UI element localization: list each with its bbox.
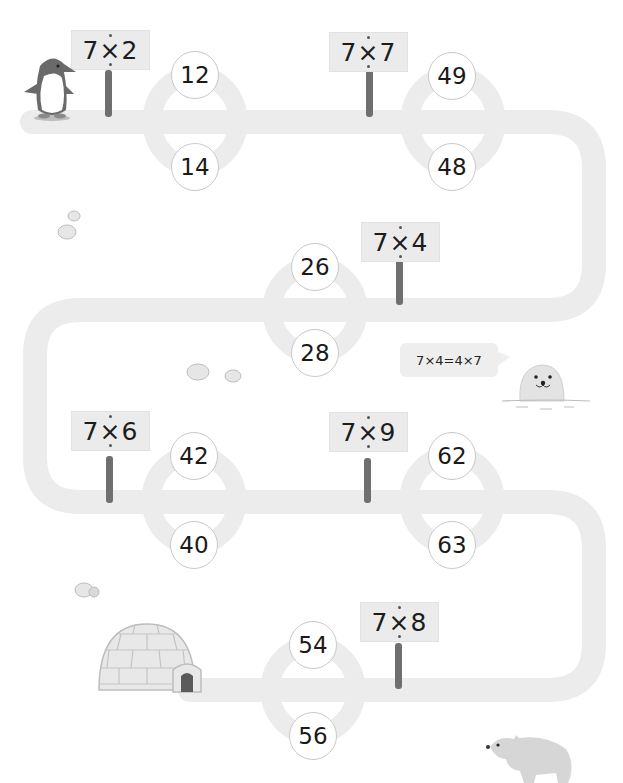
sign-post xyxy=(364,458,371,503)
answer-option[interactable]: 26 xyxy=(291,243,339,291)
problem-text: 7×6 xyxy=(83,417,139,446)
answer-option[interactable]: 63 xyxy=(428,521,476,569)
seal-icon xyxy=(500,355,592,411)
answer-option[interactable]: 54 xyxy=(289,621,337,669)
answer-option[interactable]: 14 xyxy=(171,143,219,191)
problem-sign-7x9: 7×9 xyxy=(329,412,408,452)
hint-text: 7×4=4×7 xyxy=(416,353,482,368)
sign-post xyxy=(366,70,373,117)
problem-sign-7x7: 7×7 xyxy=(329,32,408,72)
problem-text: 7×9 xyxy=(341,418,397,447)
problem-sign-7x4: 7×4 xyxy=(361,222,440,262)
maze-scene: 7×2 12 14 7×7 49 48 7×4 26 28 7×6 42 40 … xyxy=(0,0,623,783)
sign-post xyxy=(395,643,402,689)
snow-rock-icon xyxy=(55,208,85,244)
sign-post xyxy=(106,456,113,503)
answer-option[interactable]: 48 xyxy=(428,143,476,191)
penguin-icon xyxy=(22,52,82,124)
answer-option[interactable]: 42 xyxy=(170,432,218,480)
sign-post xyxy=(105,70,112,117)
sign-post xyxy=(396,258,403,305)
problem-text: 7×2 xyxy=(83,36,139,65)
hint-speech-bubble: 7×4=4×7 xyxy=(400,343,498,377)
snow-rock-icon xyxy=(183,360,245,388)
snow-rock-icon xyxy=(72,579,102,601)
problem-text: 7×4 xyxy=(373,228,429,257)
igloo-icon xyxy=(97,620,209,700)
answer-option[interactable]: 62 xyxy=(428,432,476,480)
polar-bear-icon xyxy=(484,735,580,783)
answer-option[interactable]: 28 xyxy=(291,329,339,377)
problem-text: 7×8 xyxy=(372,608,428,637)
answer-option[interactable]: 40 xyxy=(170,521,218,569)
answer-option[interactable]: 49 xyxy=(428,52,476,100)
answer-option[interactable]: 56 xyxy=(289,712,337,760)
problem-sign-7x6: 7×6 xyxy=(71,411,150,451)
problem-sign-7x2: 7×2 xyxy=(71,30,150,70)
answer-option[interactable]: 12 xyxy=(171,51,219,99)
problem-sign-7x8: 7×8 xyxy=(360,602,439,642)
problem-text: 7×7 xyxy=(341,38,397,67)
